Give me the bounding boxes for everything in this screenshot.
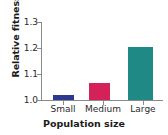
x-axis-title: Population size — [0, 118, 168, 129]
y-tick-label: 1.1 — [18, 70, 38, 79]
x-axis-line — [41, 100, 163, 101]
plot-area — [41, 22, 163, 100]
x-tick-label-large: Large — [124, 104, 162, 114]
bar-chart: Relative fitness 1.3 1.2 1.1 1.0 Small M… — [0, 0, 168, 135]
bar-medium — [89, 83, 110, 100]
y-tick-label: 1.0 — [18, 96, 38, 105]
bar-small — [53, 95, 74, 100]
y-tick-mark — [37, 100, 41, 101]
x-tick-label-medium: Medium — [82, 104, 124, 114]
bar-large — [128, 47, 153, 100]
x-tick-label-small: Small — [44, 104, 82, 114]
y-tick-label: 1.2 — [18, 44, 38, 53]
y-tick-label: 1.3 — [18, 18, 38, 27]
y-tick-label-group: 1.3 1.2 1.1 1.0 — [17, 0, 38, 135]
